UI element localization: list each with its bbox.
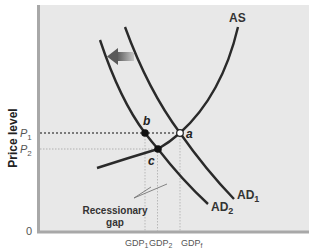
gap-label-line2: gap [106,217,124,228]
gap-label-line1: Recessionary [82,205,147,216]
ad-as-diagram: Price level P1 P2 0 AS AD1 AD2 b a c Rec… [0,0,309,250]
point-c-label: c [148,154,155,168]
gdpf-label: GDPf [181,238,203,249]
origin-label: 0 [26,225,32,237]
as-curve-label: AS [229,11,246,25]
point-a-label: a [186,127,193,141]
point-b-marker [141,129,149,137]
price-label-p1: P1 [20,127,32,142]
gdp2-label: GDP2 [149,238,173,249]
plot-area [38,5,309,231]
point-c-marker [154,145,162,153]
point-a-marker [177,130,184,137]
gdp1-label: GDP1 [125,238,149,249]
price-label-p2: P2 [20,143,32,158]
point-b-label: b [143,114,150,128]
y-axis-label: Price level [6,108,20,167]
